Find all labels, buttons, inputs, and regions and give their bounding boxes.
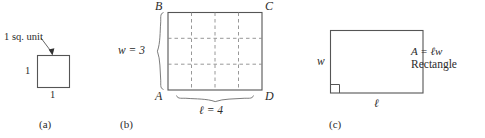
rectangle-width-label: w xyxy=(317,56,325,68)
formula-shape-name: Rectangle xyxy=(411,59,457,71)
area-formula: A = ℓw xyxy=(411,46,442,57)
panel-c: w ℓ A = ℓw Rectangle (c) xyxy=(0,0,485,138)
geometry-figure: 1 sq. unit 1 1 (a) B C A D w = 3 ℓ = 4 (… xyxy=(0,0,485,138)
caption-c: (c) xyxy=(329,119,341,130)
rectangle-length-label: ℓ xyxy=(374,98,379,110)
